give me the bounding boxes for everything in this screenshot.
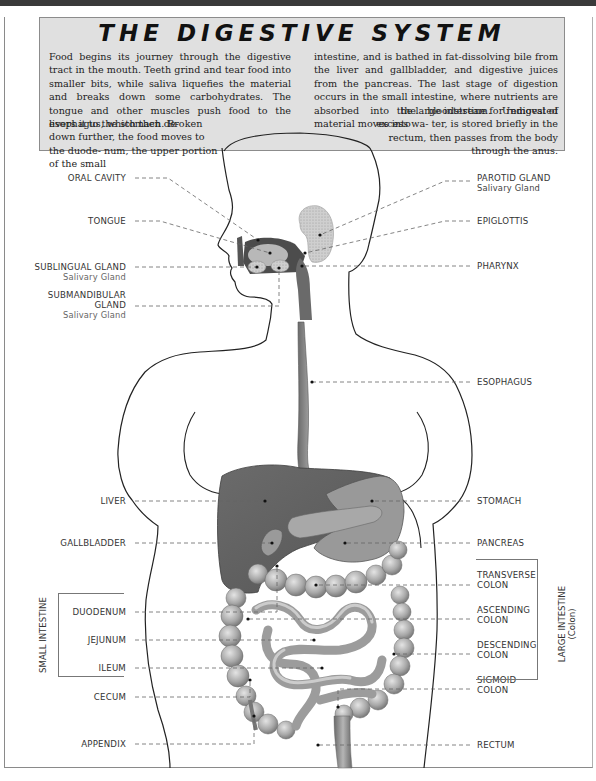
label-esophagus: ESOPHAGUS [477, 377, 532, 387]
label-sublingual-gland: SUBLINGUAL GLANDSalivary Gland [10, 262, 126, 282]
pharynx-shape [296, 258, 312, 320]
label-parotid-gland: PAROTID GLANDSalivary Gland [477, 173, 551, 193]
label-tongue: TONGUE [30, 216, 126, 226]
large-intestine-label: LARGE INTESTINE (Colon) [557, 579, 577, 669]
label-cecum: CECUM [30, 692, 126, 702]
small-intestine-bracket [58, 593, 124, 677]
label-submandibular-gland: SUBMANDIBULARGLANDSalivary Gland [10, 290, 126, 320]
label-pharynx: PHARYNX [477, 261, 519, 271]
lips [237, 236, 244, 266]
large-intestine-bracket [476, 559, 538, 680]
label-stomach: STOMACH [477, 496, 521, 506]
body-outline [224, 133, 372, 152]
rectum-shape [334, 716, 352, 768]
label-pancreas: PANCREAS [477, 538, 524, 548]
label-liver: LIVER [30, 496, 126, 506]
label-oral-cavity: ORAL CAVITY [30, 173, 126, 183]
label-appendix: APPENDIX [30, 739, 126, 749]
label-gallbladder: GALLBLADDER [30, 538, 126, 548]
body-outline-right [349, 152, 472, 768]
small-intestine-label: SMALL INTESTINE [38, 590, 48, 680]
label-rectum: RECTUM [477, 740, 515, 750]
label-epiglottis: EPIGLOTTIS [477, 216, 528, 226]
submandibular-gland-shape [271, 260, 289, 272]
